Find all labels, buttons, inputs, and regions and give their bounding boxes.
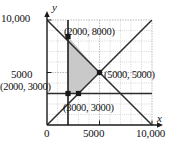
point-label-2000-8000: (2000, 8000): [64, 27, 115, 38]
point-label-5000-5000: (5000, 5000): [104, 70, 155, 81]
point-label-3000-3000: (3000, 3000): [63, 103, 114, 114]
x-axis-name-label: x: [157, 113, 162, 124]
point-marker-2000-3000: [65, 91, 70, 96]
chart-figure: 10,000 5000 0 5000 10,000 y x (2000, 800…: [0, 0, 170, 144]
x-axis-tick-label-5000: 5000: [83, 128, 104, 139]
point-marker-5000-5000: [97, 70, 102, 75]
y-axis-name-label: y: [52, 2, 57, 13]
y-axis-tick-label-10000: 10,000: [1, 13, 30, 24]
x-axis-tick-label-0: 0: [44, 128, 50, 139]
y-axis-arrowhead: [44, 11, 49, 17]
point-label-2000-3000: (2000, 3000): [0, 82, 51, 93]
x-axis-tick-label-10000: 10,000: [136, 128, 165, 139]
point-marker-3000-3000: [76, 91, 81, 96]
y-axis-tick-label-5000: 5000: [11, 69, 32, 80]
